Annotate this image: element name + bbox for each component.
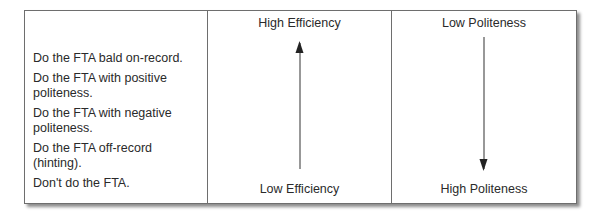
- strategies-list: Do the FTA bald on-record. Do the FTA wi…: [33, 51, 203, 196]
- high-politeness-label: High Politeness: [392, 182, 576, 196]
- arrow-up-icon: [299, 43, 300, 169]
- efficiency-column: High Efficiency Low Efficiency: [208, 11, 392, 203]
- arrow-down-icon: [484, 37, 485, 169]
- strategy-item: Do the FTA off-record (hinting).: [33, 141, 203, 171]
- strategies-column: Do the FTA bald on-record. Do the FTA wi…: [25, 11, 208, 203]
- low-efficiency-label: Low Efficiency: [208, 182, 391, 196]
- strategy-item: Do the FTA with positive politeness.: [33, 71, 203, 101]
- strategy-item: Don't do the FTA.: [33, 176, 203, 191]
- low-politeness-label: Low Politeness: [392, 16, 576, 30]
- strategy-item: Do the FTA with negative politeness.: [33, 106, 203, 136]
- politeness-column: Low Politeness High Politeness: [392, 11, 576, 203]
- strategy-item: Do the FTA bald on-record.: [33, 51, 203, 66]
- high-efficiency-label: High Efficiency: [208, 16, 391, 30]
- politeness-strategies-diagram: Do the FTA bald on-record. Do the FTA wi…: [24, 10, 577, 204]
